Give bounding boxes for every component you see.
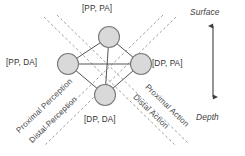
node-label-bottom: [DP, DA] <box>84 116 116 124</box>
node-label-right: [DP, PA] <box>152 60 183 68</box>
axis-label-depth: Depth <box>196 113 219 121</box>
diagram-figure: [PP, PA] [PP, DA] [DP, PA] [DP, DA] Surf… <box>0 0 245 156</box>
node-label-left: [PP, DA] <box>6 59 37 67</box>
node-label-top: [PP, PA] <box>82 5 112 13</box>
axis-label-surface: Surface <box>190 8 220 16</box>
node-bottom[interactable] <box>95 85 116 106</box>
node-left[interactable] <box>58 54 79 75</box>
node-top[interactable] <box>99 27 120 48</box>
node-right[interactable] <box>131 54 152 75</box>
